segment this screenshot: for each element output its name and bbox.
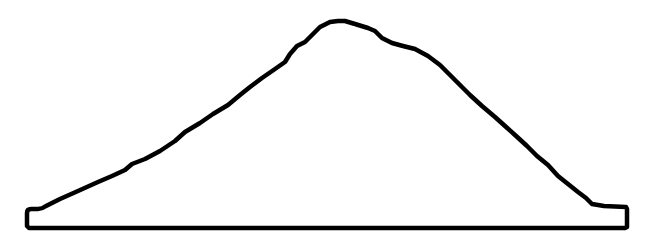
drawing-canvas bbox=[0, 0, 649, 242]
mound-outline-drawing bbox=[0, 0, 649, 242]
mound-outline-path bbox=[27, 21, 627, 228]
